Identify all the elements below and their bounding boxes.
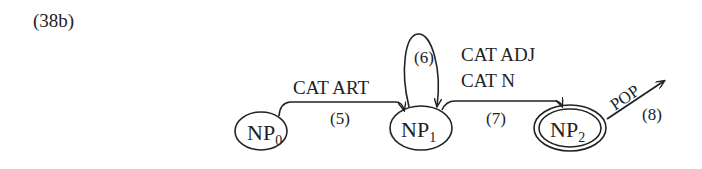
arc-8-number: (8) (642, 105, 662, 124)
node-np2-label: NP2 (550, 117, 585, 145)
arc-8-pop: POP (8) (607, 81, 664, 124)
arc-7-label-line2: CAT N (461, 70, 515, 91)
arc-6-number: (6) (414, 48, 434, 67)
arc-8-label: POP (607, 81, 643, 114)
node-np0-label: NP0 (247, 120, 282, 148)
arc-6-self-loop: (6) (404, 34, 438, 107)
transition-network-diagram: NP0 NP1 NP2 CAT ART (5) (6) CAT ADJ CAT … (0, 0, 702, 169)
arc-5-number: (5) (330, 109, 350, 128)
arc-7-cat-adj-cat-n: CAT ADJ CAT N (7) (442, 44, 562, 128)
arc-5-cat-art: CAT ART (5) (279, 77, 404, 128)
node-np0: NP0 (235, 112, 287, 150)
arc-7-label-line1: CAT ADJ (461, 44, 535, 65)
node-np2-final: NP2 (534, 105, 606, 151)
node-np1-label: NP1 (401, 117, 436, 145)
arc-5-label: CAT ART (293, 77, 370, 98)
arc-7-number: (7) (486, 109, 506, 128)
node-np1: NP1 (390, 106, 452, 150)
